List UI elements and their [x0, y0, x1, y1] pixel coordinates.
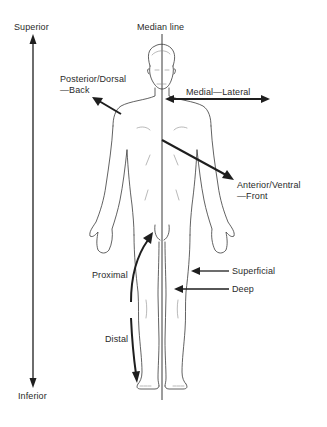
deep-label: Deep — [232, 284, 254, 295]
anterior-ventral-arrow — [162, 140, 234, 180]
body-figure-illustration — [0, 0, 327, 427]
superficial-label: Superficial — [232, 266, 275, 277]
posterior-dorsal-label: Posterior/Dorsal — [60, 74, 126, 85]
superior-inferior-arrow — [30, 34, 37, 388]
superior-label: Superior — [14, 22, 49, 33]
anatomical-directions-diagram: Superior Inferior Median line Posterior/… — [0, 0, 327, 427]
front-label: —Front — [237, 191, 268, 202]
proximal-label: Proximal — [92, 270, 128, 281]
deep-arrow — [174, 285, 229, 293]
medial-lateral-label: Medial—Lateral — [186, 87, 250, 98]
inferior-label: Inferior — [18, 391, 47, 402]
back-label: —Back — [60, 85, 90, 96]
distal-label: Distal — [105, 334, 128, 345]
median-line-label: Median line — [137, 22, 184, 33]
posterior-dorsal-arrow — [92, 97, 121, 114]
anterior-ventral-label: Anterior/Ventral — [237, 180, 301, 191]
superficial-arrow — [191, 267, 229, 275]
